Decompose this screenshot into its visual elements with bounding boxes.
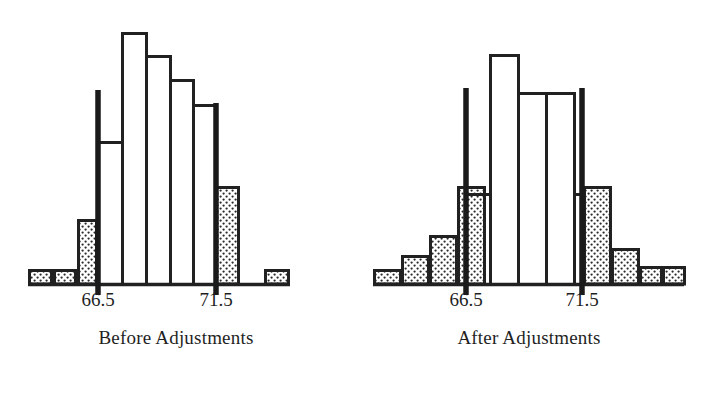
panel-before-adjustments: 66.5 71.5 Before Adjustments xyxy=(0,0,352,394)
histogram-before-adjustments xyxy=(0,0,352,300)
bar-shaded xyxy=(375,271,401,284)
panel-caption-after: After Adjustments xyxy=(353,327,705,349)
bar-shaded xyxy=(55,271,76,284)
bar-shaded xyxy=(585,188,611,284)
bar-shaded xyxy=(431,237,457,284)
bar-shaded xyxy=(641,268,662,284)
histogram-after-adjustments xyxy=(353,0,705,300)
tick-label-lower: 66.5 xyxy=(81,289,114,311)
bar-shaded xyxy=(79,221,97,284)
bar-shaded xyxy=(217,188,239,284)
bars-open-group xyxy=(99,34,216,285)
figure-root: 66.5 71.5 Before Adjustments xyxy=(0,0,705,394)
bar-shaded xyxy=(664,268,685,284)
tick-label-upper: 71.5 xyxy=(565,289,598,311)
bars-shaded-group xyxy=(375,188,685,285)
tick-label-lower: 66.5 xyxy=(449,289,482,311)
bars-shaded-group xyxy=(30,188,289,285)
panel-caption-before: Before Adjustments xyxy=(0,327,352,349)
panel-after-adjustments: 66.5 71.5 After Adjustments xyxy=(353,0,705,394)
bar-open-profile xyxy=(99,34,216,285)
bar-shaded xyxy=(459,188,485,284)
bar-shaded xyxy=(403,257,429,284)
bar-shaded xyxy=(266,271,289,284)
bar-shaded xyxy=(613,250,639,284)
tick-label-upper: 71.5 xyxy=(199,289,232,311)
bar-shaded xyxy=(30,271,52,284)
